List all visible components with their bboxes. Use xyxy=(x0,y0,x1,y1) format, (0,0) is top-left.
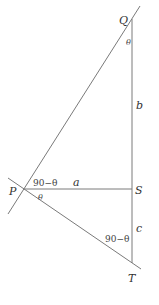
line-PT xyxy=(8,178,141,269)
point-label-S: S xyxy=(135,184,143,197)
angle-label-T: 90−θ xyxy=(105,234,129,244)
point-label-Q: Q xyxy=(119,14,128,27)
geometry-diagram: Q P S T a b c θ 90−θ θ 90−θ xyxy=(0,0,159,305)
segment-label-c: c xyxy=(136,222,142,235)
point-label-P: P xyxy=(8,185,17,198)
segment-label-b: b xyxy=(136,99,143,112)
angle-label-P-lower: θ xyxy=(38,193,43,202)
point-label-T: T xyxy=(128,272,137,285)
angle-label-Q: θ xyxy=(126,38,131,47)
angle-label-P-upper: 90−θ xyxy=(33,178,57,188)
segment-label-a: a xyxy=(73,176,80,189)
